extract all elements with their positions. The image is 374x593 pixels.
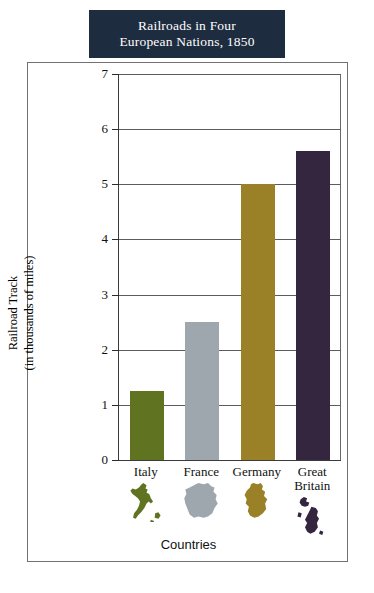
chart-title-banner: Railroads in Four European Nations, 1850 [89, 10, 285, 58]
y-axis-title-line-2: (in thousands of miles) [22, 213, 38, 413]
chart-title-line-1: Railroads in Four [138, 18, 236, 34]
category-group: Great Britain [279, 465, 345, 542]
y-axis-tick [112, 405, 119, 406]
y-axis-tick-label: 1 [102, 397, 109, 413]
bar-france [185, 322, 219, 460]
y-axis-tick [112, 295, 119, 296]
y-axis-tick-label: 5 [102, 176, 109, 192]
y-axis-tick-label: 7 [102, 66, 109, 82]
plot-right-rule [340, 74, 341, 460]
y-axis-title-line-1: Railroad Track [6, 213, 22, 413]
y-axis-tick-label: 3 [102, 287, 109, 303]
y-axis-tick-label: 6 [102, 121, 109, 137]
gridline [119, 129, 341, 130]
category-label: Great Britain [279, 465, 345, 493]
bar-germany [241, 184, 275, 460]
x-axis-title: Countries [28, 537, 349, 552]
y-axis-tick [112, 350, 119, 351]
y-axis-tick [112, 184, 119, 185]
y-axis-tick-label: 4 [102, 231, 109, 247]
plot-area: 01234567 [118, 74, 341, 461]
y-axis-title: Railroad Track (in thousands of miles) [6, 213, 37, 413]
y-axis-tick [112, 239, 119, 240]
y-axis-tick [112, 74, 119, 75]
chart-title-line-2: European Nations, 1850 [119, 34, 254, 50]
great-britain-map-icon [279, 496, 345, 542]
bar-italy [130, 391, 164, 460]
gridline [119, 74, 341, 75]
y-axis-tick [112, 460, 119, 461]
y-axis-tick-label: 0 [102, 452, 109, 468]
y-axis-tick-label: 2 [102, 342, 109, 358]
bar-great-britain [296, 151, 330, 460]
chart-frame: Railroad Track (in thousands of miles) 0… [27, 62, 348, 562]
y-axis-tick [112, 129, 119, 130]
